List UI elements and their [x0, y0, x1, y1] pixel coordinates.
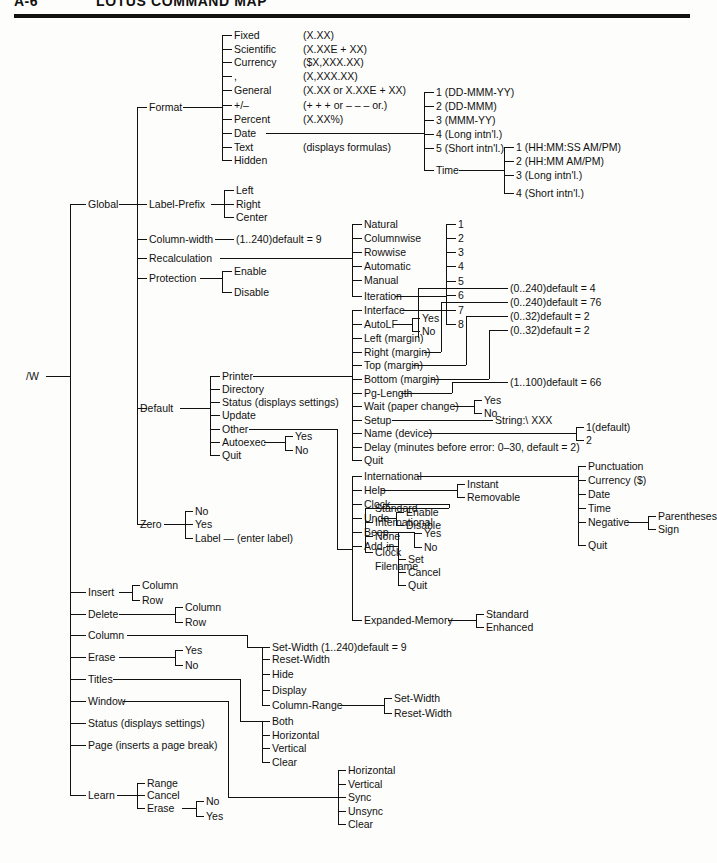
- node-label-prefix-center[interactable]: Center: [236, 211, 268, 223]
- node-protection[interactable]: Protection: [149, 272, 196, 284]
- node-intl-negative[interactable]: Negative: [588, 516, 629, 528]
- node-default-printer[interactable]: Printer: [222, 370, 253, 382]
- node-zero-yes[interactable]: Yes: [195, 518, 212, 530]
- node-protection-enable[interactable]: Enable: [234, 265, 267, 277]
- node-titles-horizontal[interactable]: Horizontal: [272, 729, 319, 741]
- node-zero-no[interactable]: No: [195, 505, 208, 517]
- node-printer-interface[interactable]: Interface: [364, 304, 405, 316]
- node-iteration-1[interactable]: 1: [458, 218, 464, 230]
- node-autolf-yes[interactable]: Yes: [422, 312, 439, 324]
- node-column-width[interactable]: Column-width: [149, 233, 213, 245]
- node-root[interactable]: /W: [26, 370, 39, 382]
- node-erase-yes[interactable]: Yes: [185, 644, 202, 656]
- node-recalc-rowwise[interactable]: Rowwise: [364, 246, 406, 258]
- node-recalc-natural[interactable]: Natural: [364, 218, 398, 230]
- node-name-2[interactable]: 2: [586, 434, 592, 446]
- node-learn-erase-yes[interactable]: Yes: [206, 810, 223, 822]
- node-date-1[interactable]: 1 (DD-MMM-YY): [436, 86, 514, 98]
- node-titles-both[interactable]: Both: [272, 715, 294, 727]
- node-iteration-6[interactable]: 6: [458, 289, 464, 301]
- node-margin-left[interactable]: Left (margin): [364, 332, 424, 344]
- node-addin-quit[interactable]: Quit: [408, 579, 427, 591]
- node-column-setwidth[interactable]: Set-Width (1..240)default = 9: [272, 641, 407, 653]
- node-negative-sign[interactable]: Sign: [658, 523, 679, 535]
- node-iteration-5[interactable]: 5: [458, 275, 464, 287]
- node-expmem-standard[interactable]: Standard: [486, 608, 529, 620]
- node-beep-no[interactable]: No: [424, 541, 437, 553]
- node-printer-wait[interactable]: Wait (paper change): [364, 400, 459, 412]
- node-recalc-automatic[interactable]: Automatic: [364, 260, 411, 272]
- node-time-4[interactable]: 4 (Short intn'l.): [516, 187, 584, 199]
- node-label-prefix-left[interactable]: Left: [236, 184, 254, 196]
- node-titles-clear[interactable]: Clear: [272, 756, 297, 768]
- node-autolf-no[interactable]: No: [422, 325, 435, 337]
- node-time-2[interactable]: 2 (HH:MM AM/PM): [516, 155, 604, 167]
- node-zero[interactable]: Zero: [140, 518, 162, 530]
- node-colrange-resetwidth[interactable]: Reset-Width: [394, 707, 452, 719]
- node-global[interactable]: Global: [88, 198, 118, 210]
- node-format-currency[interactable]: Currency: [234, 56, 277, 68]
- node-column-range[interactable]: Column-Range: [272, 699, 343, 711]
- node-default-other[interactable]: Other: [222, 423, 248, 435]
- node-learn-erase[interactable]: Erase: [147, 802, 174, 814]
- node-iteration-8[interactable]: 8: [458, 318, 464, 330]
- node-label-prefix-right[interactable]: Right: [236, 198, 261, 210]
- node-default-autoexec[interactable]: Autoexec: [222, 436, 266, 448]
- node-printer-quit[interactable]: Quit: [364, 454, 383, 466]
- node-expanded-memory[interactable]: Expanded-Memory: [364, 614, 453, 626]
- node-status[interactable]: Status (displays settings): [88, 717, 205, 729]
- node-time-1[interactable]: 1 (HH:MM:SS AM/PM): [516, 141, 621, 153]
- node-window-horizontal[interactable]: Horizontal: [348, 764, 395, 776]
- node-insert[interactable]: Insert: [88, 586, 114, 598]
- node-margin-bottom[interactable]: Bottom (margin): [364, 373, 439, 385]
- node-recalculation[interactable]: Recalculation: [149, 252, 212, 264]
- node-window-unsync[interactable]: Unsync: [348, 805, 383, 817]
- node-clock-international[interactable]: International: [375, 516, 433, 528]
- node-erase-no[interactable]: No: [185, 659, 198, 671]
- node-recalc-manual[interactable]: Manual: [364, 274, 398, 286]
- node-clock-clock[interactable]: Clock: [375, 546, 401, 558]
- node-clock-filename[interactable]: Filename: [375, 560, 418, 572]
- node-iteration-3[interactable]: 3: [458, 246, 464, 258]
- node-label-prefix[interactable]: Label-Prefix: [149, 198, 205, 210]
- node-iteration-2[interactable]: 2: [458, 232, 464, 244]
- node-column-resetwidth[interactable]: Reset-Width: [272, 653, 330, 665]
- node-delete-column[interactable]: Column: [185, 601, 221, 613]
- node-recalc-iteration[interactable]: Iteration: [364, 290, 402, 302]
- node-other-help[interactable]: Help: [364, 484, 386, 496]
- node-wait-yes[interactable]: Yes: [484, 394, 501, 406]
- node-colrange-setwidth[interactable]: Set-Width: [394, 692, 440, 704]
- node-window[interactable]: Window: [88, 695, 125, 707]
- node-default[interactable]: Default: [140, 402, 173, 414]
- node-beep-yes[interactable]: Yes: [424, 527, 441, 539]
- node-learn-erase-no[interactable]: No: [206, 795, 219, 807]
- node-erase[interactable]: Erase: [88, 651, 115, 663]
- node-name-1[interactable]: 1(default): [586, 421, 630, 433]
- node-learn-cancel[interactable]: Cancel: [147, 789, 180, 801]
- node-clock-none[interactable]: None: [375, 530, 400, 542]
- node-margin-right[interactable]: Right (margin): [364, 346, 431, 358]
- node-date-4[interactable]: 4 (Long intn'l.): [436, 128, 502, 140]
- node-clock-standard[interactable]: Standard: [375, 502, 418, 514]
- node-date-2[interactable]: 2 (DD-MMM): [436, 100, 497, 112]
- node-format-date[interactable]: Date: [234, 127, 256, 139]
- node-learn[interactable]: Learn: [88, 789, 115, 801]
- node-window-sync[interactable]: Sync: [348, 791, 371, 803]
- node-page[interactable]: Page (inserts a page break): [88, 739, 218, 751]
- node-zero-label[interactable]: Label — (enter label): [195, 532, 293, 544]
- node-printer-pglength[interactable]: Pg-Length: [364, 387, 412, 399]
- node-format[interactable]: Format: [149, 101, 182, 113]
- node-expmem-enhanced[interactable]: Enhanced: [486, 621, 533, 633]
- node-column[interactable]: Column: [88, 629, 124, 641]
- node-margin-top[interactable]: Top (margin): [364, 359, 423, 371]
- node-autoexec-yes[interactable]: Yes: [295, 430, 312, 442]
- node-printer-delay[interactable]: Delay (minutes before error: 0–30, defau…: [364, 441, 580, 453]
- node-default-update[interactable]: Update: [222, 409, 256, 421]
- node-format-hidden[interactable]: Hidden: [234, 154, 267, 166]
- node-recalc-columnwise[interactable]: Columnwise: [364, 232, 421, 244]
- node-format-fixed[interactable]: Fixed: [234, 29, 260, 41]
- node-help-removable[interactable]: Removable: [467, 491, 520, 503]
- node-learn-range[interactable]: Range: [147, 777, 178, 789]
- node-date-5[interactable]: 5 (Short intn'l.): [436, 142, 504, 154]
- node-delete-row[interactable]: Row: [185, 616, 206, 628]
